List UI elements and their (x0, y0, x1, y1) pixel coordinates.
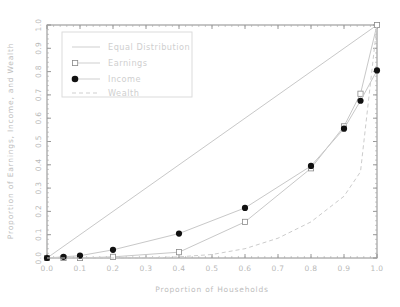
data-point (60, 254, 66, 260)
data-point (357, 98, 363, 104)
data-point (374, 67, 380, 73)
data-point (176, 250, 181, 255)
y-tick-label: 0.8 (34, 65, 43, 78)
data-point (110, 247, 116, 253)
data-point (358, 91, 363, 96)
legend-label: Income (108, 74, 141, 84)
y-tick-label: 1.0 (34, 19, 43, 32)
y-tick-label: 0.2 (34, 205, 43, 218)
legend-marker-circle (72, 76, 79, 83)
series-line (47, 70, 377, 258)
legend-label: Equal Distribution (108, 42, 190, 52)
y-tick-label: 0.5 (34, 135, 43, 148)
y-tick-label: 0.0 (34, 252, 43, 265)
x-tick-label: 0.9 (338, 264, 351, 273)
x-tick-label: 0.8 (305, 264, 318, 273)
x-tick-label: 0.6 (239, 264, 252, 273)
x-tick-label: 0.3 (140, 264, 153, 273)
y-tick-label: 0.4 (34, 158, 43, 171)
lorenz-curve-figure: 0.00.10.20.30.40.50.60.70.80.91.0 0.00.1… (0, 0, 400, 307)
legend-label: Wealth (108, 88, 139, 98)
data-point (242, 219, 247, 224)
x-tick-label: 0.7 (272, 264, 285, 273)
legend-label: Earnings (108, 58, 148, 68)
y-tick-label: 0.1 (34, 228, 43, 241)
y-axis-title: Proportion of Earnings, Income, and Weal… (6, 43, 15, 239)
y-tick-label: 0.9 (34, 42, 43, 55)
legend-marker-square (73, 60, 78, 65)
data-point (341, 126, 347, 132)
data-point (176, 230, 182, 236)
x-tick-label: 1.0 (371, 264, 384, 273)
x-axis-title: Proportion of Households (155, 285, 269, 294)
x-tick-label: 0.5 (206, 264, 219, 273)
data-point (374, 22, 379, 27)
y-tick-label: 0.7 (34, 88, 43, 101)
data-point (242, 205, 248, 211)
x-axis-tick-labels: 0.00.10.20.30.40.50.60.70.80.91.0 (41, 264, 384, 273)
y-axis-tick-labels: 0.00.10.20.30.40.50.60.70.80.91.0 (34, 19, 43, 265)
data-point (308, 163, 314, 169)
y-tick-label: 0.6 (34, 112, 43, 125)
x-tick-label: 0.1 (74, 264, 87, 273)
y-tick-label: 0.3 (34, 182, 43, 195)
data-point (110, 254, 115, 259)
x-tick-label: 0.4 (173, 264, 186, 273)
chart-canvas: 0.00.10.20.30.40.50.60.70.80.91.0 0.00.1… (0, 0, 400, 307)
x-tick-label: 0.2 (107, 264, 120, 273)
legend: Equal DistributionEarningsIncomeWealth (62, 32, 192, 98)
